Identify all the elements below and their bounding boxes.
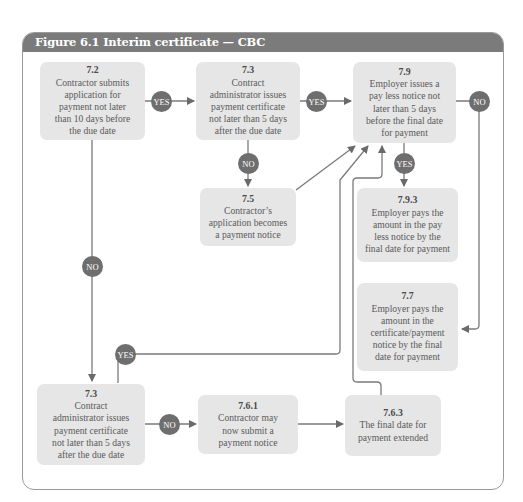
yes-badge: YES bbox=[394, 153, 415, 174]
node-text-line: Contractor may bbox=[218, 412, 278, 424]
node-text-line: pay less notice not bbox=[369, 90, 440, 102]
node-number: 7.6.3 bbox=[383, 407, 403, 419]
arrow-7-3b-to-7-9 bbox=[118, 146, 368, 383]
node-7-9: 7.9 Employer issues a pay less notice no… bbox=[353, 62, 456, 143]
node-7-3-lower: 7.3 Contract administrator issues paymen… bbox=[37, 384, 145, 465]
node-text-line: administrator issues bbox=[53, 412, 129, 424]
node-text-line: payment notice bbox=[219, 437, 278, 449]
node-text-line: administrator issues bbox=[210, 89, 286, 101]
node-number: 7.2 bbox=[86, 64, 98, 76]
no-badge: NO bbox=[469, 91, 490, 112]
node-text-line: now submit a bbox=[222, 425, 274, 437]
no-badge: NO bbox=[159, 414, 180, 435]
arrow-7-9-to-7-7 bbox=[456, 101, 479, 329]
node-text-line: Employer issues a bbox=[370, 78, 440, 90]
node-text-line: than 10 days before bbox=[55, 113, 130, 125]
node-text-line: amount in the pay bbox=[373, 219, 442, 231]
node-7-3-upper: 7.3 Contract administrator issues paymen… bbox=[196, 62, 300, 140]
node-text-line: Employer pays the bbox=[372, 207, 444, 219]
node-text-line: a payment notice bbox=[215, 229, 281, 241]
node-7-9-3: 7.9.3 Employer pays the amount in the pa… bbox=[357, 188, 458, 262]
node-7-5: 7.5 Contractor’s application becomes a p… bbox=[200, 188, 296, 246]
node-number: 7.7 bbox=[401, 290, 413, 302]
node-text-line: before the final date bbox=[366, 115, 443, 127]
node-number: 7.9 bbox=[398, 66, 410, 78]
node-text-line: application becomes bbox=[209, 217, 288, 229]
node-text-line: certificate/payment bbox=[370, 327, 444, 339]
node-text-line: not later than 5 days bbox=[209, 113, 287, 125]
node-text-line: payment certificate bbox=[54, 425, 128, 437]
node-text-line: Contractor’s bbox=[224, 205, 272, 217]
node-number: 7.6.1 bbox=[238, 400, 258, 412]
node-7-2: 7.2 Contractor submits application for p… bbox=[40, 62, 145, 140]
node-text-line: Contract bbox=[74, 400, 107, 412]
node-text-line: final date for payment bbox=[365, 243, 450, 255]
node-text-line: later than 5 days bbox=[373, 103, 436, 115]
node-7-7: 7.7 Employer pays the amount in the cert… bbox=[357, 283, 458, 371]
node-text-line: amount in the bbox=[381, 315, 434, 327]
node-number: 7.5 bbox=[242, 193, 254, 205]
yes-badge: YES bbox=[115, 344, 136, 365]
node-7-6-1: 7.6.1 Contractor may now submit a paymen… bbox=[198, 395, 298, 454]
node-text-line: less notice by the bbox=[374, 231, 440, 243]
node-text-line: application for bbox=[64, 89, 120, 101]
node-text-line: not later than 5 days bbox=[52, 437, 130, 449]
no-badge: NO bbox=[238, 153, 259, 174]
yes-badge: YES bbox=[151, 91, 172, 112]
node-text-line: Contract bbox=[231, 77, 264, 89]
node-text-line: notice by the final bbox=[373, 339, 443, 351]
yes-badge: YES bbox=[306, 91, 327, 112]
node-text-line: payment certificate bbox=[211, 101, 285, 113]
node-text-line: the due date bbox=[69, 125, 115, 137]
node-text-line: for payment bbox=[381, 127, 428, 139]
node-text-line: date for payment bbox=[375, 351, 440, 363]
node-text-line: payment extended bbox=[358, 432, 428, 444]
node-text-line: after the due date bbox=[58, 449, 124, 461]
no-badge: NO bbox=[82, 256, 103, 277]
node-number: 7.9.3 bbox=[398, 194, 418, 206]
arrow-7-5-to-7-9 bbox=[296, 146, 355, 190]
node-number: 7.3 bbox=[85, 388, 97, 400]
node-text-line: after the due date bbox=[215, 125, 281, 137]
node-text-line: payment not later bbox=[59, 101, 126, 113]
node-text-line: Employer pays the bbox=[372, 303, 444, 315]
node-7-6-3: 7.6.3 The final date for payment extende… bbox=[345, 395, 441, 456]
node-text-line: Contractor submits bbox=[56, 77, 129, 89]
node-text-line: The final date for bbox=[360, 419, 427, 431]
node-number: 7.3 bbox=[242, 64, 254, 76]
